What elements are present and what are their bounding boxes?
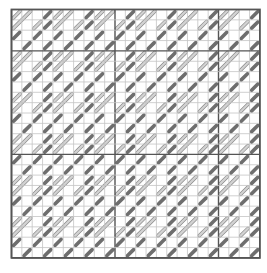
dark-stitch [158, 239, 164, 245]
dark-stitch [169, 105, 175, 111]
dark-stitch [127, 229, 133, 235]
dark-stitch [45, 105, 51, 111]
dark-stitch [241, 239, 247, 245]
dark-stitch [45, 84, 51, 90]
dark-stitch [34, 156, 40, 162]
dark-stitch [252, 146, 258, 152]
dark-stitch [34, 32, 40, 38]
dark-stitch [86, 188, 92, 194]
dark-stitch [45, 94, 51, 100]
dark-stitch [45, 167, 51, 173]
dark-stitch [14, 74, 20, 80]
dark-stitch [117, 156, 123, 162]
dark-stitch [231, 125, 237, 131]
dark-stitch [96, 156, 102, 162]
dark-stitch [221, 239, 227, 245]
dark-stitch [200, 32, 206, 38]
dark-stitch [158, 115, 164, 121]
dark-stitch [45, 219, 51, 225]
dark-stitch [169, 43, 175, 49]
dark-stitch [86, 105, 92, 111]
dark-stitch [179, 198, 185, 204]
dark-stitch [24, 125, 30, 131]
dark-stitch [24, 208, 30, 214]
dark-stitch [86, 136, 92, 142]
dark-stitch [252, 219, 258, 225]
dark-stitch [221, 156, 227, 162]
dark-stitch [96, 198, 102, 204]
dark-stitch [127, 63, 133, 69]
dark-stitch [127, 167, 133, 173]
dark-stitch [45, 22, 51, 28]
dark-stitch [107, 250, 113, 256]
dark-stitch [34, 115, 40, 121]
dark-stitch [231, 208, 237, 214]
dark-stitch [45, 136, 51, 142]
dark-stitch [76, 156, 82, 162]
dark-stitch [127, 84, 133, 90]
dark-stitch [86, 208, 92, 214]
dark-stitch [210, 94, 216, 100]
dark-stitch [252, 125, 258, 131]
dark-stitch [107, 167, 113, 173]
dark-stitch [76, 198, 82, 204]
dark-stitch [169, 12, 175, 18]
dark-stitch [210, 125, 216, 131]
dark-stitch [55, 115, 61, 121]
dark-stitch [45, 43, 51, 49]
dark-stitch [210, 63, 216, 69]
dark-stitch [158, 32, 164, 38]
dark-stitch [252, 208, 258, 214]
dark-stitch [169, 250, 175, 256]
dark-stitch [241, 156, 247, 162]
dark-stitch [138, 198, 144, 204]
dark-stitch [158, 156, 164, 162]
dark-stitch [169, 84, 175, 90]
dark-stitch [148, 250, 154, 256]
dark-stitch [55, 32, 61, 38]
dark-stitch [210, 208, 216, 214]
dark-stitch [252, 188, 258, 194]
dark-stitch [252, 43, 258, 49]
dark-stitch [24, 167, 30, 173]
dark-stitch [200, 198, 206, 204]
dark-stitch [148, 208, 154, 214]
dark-stitch [252, 250, 258, 256]
dark-stitch [138, 239, 144, 245]
stitch-chart [0, 0, 267, 273]
dark-stitch [169, 229, 175, 235]
dark-stitch [45, 146, 51, 152]
dark-stitch [231, 167, 237, 173]
dark-stitch [107, 125, 113, 131]
dark-stitch [200, 239, 206, 245]
dark-stitch [252, 22, 258, 28]
dark-stitch [252, 94, 258, 100]
dark-stitch [127, 12, 133, 18]
dark-stitch [14, 115, 20, 121]
dark-stitch [210, 105, 216, 111]
dark-stitch [14, 239, 20, 245]
dark-stitch [86, 167, 92, 173]
dark-stitch [117, 74, 123, 80]
dark-stitch [158, 198, 164, 204]
dark-stitch [76, 115, 82, 121]
dark-stitch [127, 188, 133, 194]
dark-stitch [127, 219, 133, 225]
dark-stitch [117, 115, 123, 121]
dark-stitch [169, 94, 175, 100]
dark-stitch [190, 84, 196, 90]
dark-stitch [86, 84, 92, 90]
dark-stitch [138, 32, 144, 38]
dark-stitch [210, 250, 216, 256]
dark-stitch [86, 125, 92, 131]
dark-stitch [55, 239, 61, 245]
dark-stitch [148, 43, 154, 49]
dark-stitch [96, 239, 102, 245]
dark-stitch [45, 63, 51, 69]
dark-stitch [252, 53, 258, 59]
dark-stitch [138, 74, 144, 80]
dark-stitch [45, 250, 51, 256]
dark-stitch [86, 12, 92, 18]
dark-stitch [252, 12, 258, 18]
dark-stitch [86, 177, 92, 183]
